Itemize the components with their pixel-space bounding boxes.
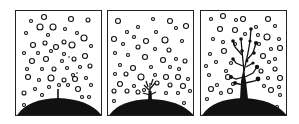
panel-1-illustration bbox=[16, 11, 102, 116]
panel-3-illustration bbox=[201, 11, 287, 116]
tall-plant-trunk bbox=[240, 69, 248, 99]
panel-1-sprout bbox=[15, 10, 102, 116]
panel-2-small-plant bbox=[107, 10, 194, 116]
mound bbox=[16, 98, 102, 116]
panel-2-illustration bbox=[108, 11, 194, 116]
mound bbox=[201, 98, 287, 116]
sprout-plant bbox=[57, 56, 78, 101]
mound bbox=[108, 99, 194, 116]
panel-3-tall-plant bbox=[200, 10, 287, 116]
